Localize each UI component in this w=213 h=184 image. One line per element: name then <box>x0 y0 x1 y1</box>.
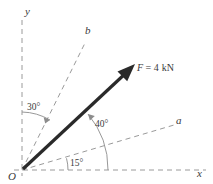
y-axis-label: y <box>24 5 30 17</box>
force-magnitude: 4 <box>154 62 159 73</box>
force-vector-diagram: y x O b a 30° 40° 15° F = 4kN <box>0 0 213 184</box>
origin-label: O <box>8 170 16 182</box>
angle-label-30: 30° <box>27 102 41 112</box>
force-unit: kN <box>162 62 174 73</box>
reference-line-b-label: b <box>85 24 91 36</box>
angle-arc-15 <box>67 158 69 170</box>
angle-label-40: 40° <box>95 119 109 129</box>
x-axis-label: x <box>196 167 202 179</box>
angle-label-15: 15° <box>70 158 84 168</box>
force-label: F = 4kN <box>136 62 174 73</box>
diagram-canvas: y x O b a 30° 40° 15° F = 4kN <box>0 0 213 184</box>
angle-arc-40-arrowhead <box>88 114 95 121</box>
force-equals: = <box>143 62 154 73</box>
reference-line-a-label: a <box>176 114 182 126</box>
